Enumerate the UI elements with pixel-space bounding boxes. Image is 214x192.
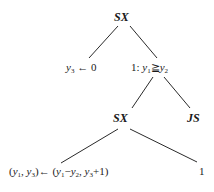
edge-cond-sx (132, 77, 153, 108)
plus-one: +1) (93, 165, 108, 177)
left-arrow-icon: ← (39, 165, 50, 177)
tree-edges (0, 0, 214, 192)
condition-node: 1: y1≧y2 (131, 61, 168, 73)
edge-root-right (130, 26, 157, 58)
edge-root-left (89, 26, 118, 58)
inner-sx-node: SX (113, 112, 128, 124)
left-assign-node: y3 ← 0 (66, 61, 96, 73)
right-leaf-one: 1 (199, 165, 205, 177)
geq-operator: ≧ (151, 61, 160, 73)
edge-sx-one (130, 129, 197, 162)
edge-sx-assign (61, 129, 118, 163)
edge-cond-js (164, 77, 190, 108)
root-sx-node: SX (114, 11, 129, 23)
js-node: JS (187, 112, 200, 124)
value: 0 (91, 61, 97, 73)
left-arrow-icon: ← (77, 61, 88, 73)
sub: 3 (71, 67, 75, 75)
tuple-assign-node: (y1, y3)← (y1−y2, y3+1) (9, 165, 108, 177)
sub: 2 (165, 67, 169, 75)
cond-prefix: 1: (131, 61, 142, 73)
